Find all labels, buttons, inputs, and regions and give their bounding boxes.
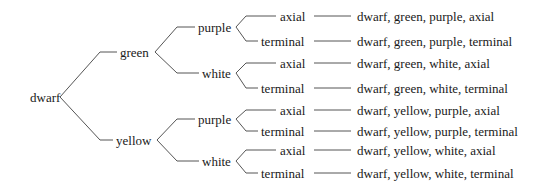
- node-level2-yellow-purple: purple: [198, 112, 231, 127]
- node-level3-leaf: terminal: [261, 124, 304, 139]
- node-level2-green-white: white: [202, 66, 231, 81]
- node-level1-green: green: [120, 45, 149, 60]
- outcome-label: dwarf, yellow, purple, axial: [357, 103, 500, 118]
- outcome-label: dwarf, yellow, white, terminal: [357, 166, 514, 181]
- outcome-label: dwarf, yellow, white, axial: [357, 143, 496, 158]
- outcome-label: dwarf, green, purple, axial: [357, 9, 494, 24]
- outcome-label: dwarf, green, white, axial: [357, 56, 490, 71]
- node-level3-leaf: axial: [280, 103, 305, 118]
- outcome-label: dwarf, yellow, purple, terminal: [357, 124, 518, 139]
- node-level2-yellow-white: white: [202, 154, 231, 169]
- node-level3-leaf: axial: [280, 9, 305, 24]
- node-level1-yellow: yellow: [116, 133, 151, 148]
- node-level3-leaf: terminal: [261, 34, 304, 49]
- outcome-label: dwarf, green, white, terminal: [357, 81, 508, 96]
- node-level3-leaf: axial: [280, 56, 305, 71]
- node-level3-leaf: axial: [280, 143, 305, 158]
- node-root: dwarf: [30, 90, 60, 105]
- node-level3-leaf: terminal: [261, 81, 304, 96]
- outcome-label: dwarf, green, purple, terminal: [357, 34, 512, 49]
- node-level3-leaf: terminal: [261, 166, 304, 181]
- node-level2-green-purple: purple: [198, 20, 231, 35]
